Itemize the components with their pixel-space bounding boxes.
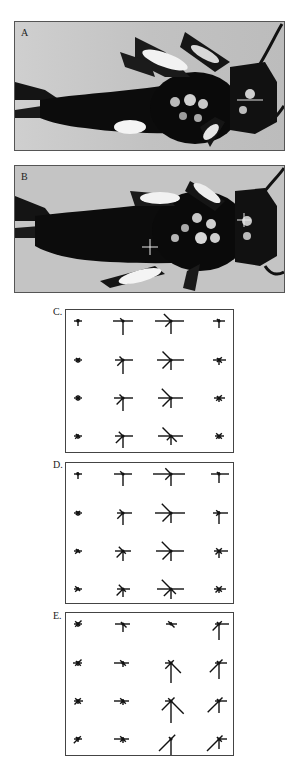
vector-star [74,698,83,704]
star-grid-e [66,613,233,755]
vector-star [158,389,183,408]
vector-star [115,357,133,375]
vector-star [157,352,184,371]
vector-star [74,358,82,363]
vector-star [74,549,82,554]
insect-larva-image-b [15,166,284,292]
vector-star [158,428,183,446]
vector-star [117,585,130,597]
vector-star [74,511,82,516]
vector-star [213,510,228,524]
vector-star [115,432,133,448]
vector-star [114,736,129,743]
vector-star [207,736,227,752]
star-grid-c [66,310,233,452]
vector-star [208,698,227,714]
vector-star [74,395,82,401]
vector-star [74,319,82,326]
panel-label-e: E. [53,610,62,621]
panel-label-b: B [21,171,28,182]
vector-star [115,547,131,561]
insect-larva-image-a [15,22,284,150]
vector-star [113,318,133,335]
vector-star [114,660,129,667]
vector-star [214,395,225,402]
vector-panel-c [65,309,234,453]
vector-star [214,586,226,593]
vector-star [213,621,229,640]
vector-star [117,510,132,526]
vector-star [215,433,224,439]
star-grid-d [66,463,233,603]
vector-star [153,468,185,486]
vector-star [114,471,132,486]
vector-star [157,580,184,599]
vector-star [162,698,184,724]
vector-star [166,621,177,627]
vector-star [114,395,133,412]
vector-star [214,548,228,558]
vector-star [213,319,225,328]
vector-star [74,586,82,592]
photo-panel-a: A [14,21,285,151]
vector-star [73,660,82,667]
vector-star [159,735,175,755]
panel-label-d: D. [53,459,63,470]
vector-star [74,621,82,628]
vector-star [74,434,82,439]
vector-star [155,504,185,523]
vector-star [74,472,82,479]
vector-star [156,542,184,561]
vector-star [74,736,82,743]
vector-star [155,314,184,334]
vector-star [213,357,226,365]
vector-star [210,660,227,680]
vector-star [114,698,129,705]
vector-star [211,472,229,483]
vector-panel-e [65,612,234,756]
vector-star [165,660,181,683]
panel-label-a: A [21,27,28,38]
vector-star [115,622,130,632]
photo-panel-b: B [14,165,285,293]
vector-panel-d [65,462,234,604]
panel-label-c: C. [53,306,62,317]
